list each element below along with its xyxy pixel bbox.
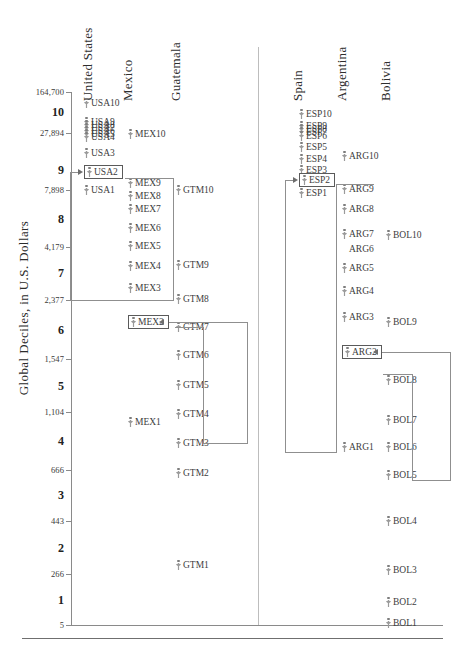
person-marker-icon [386, 470, 391, 480]
data-point-bol3: BOL3 [386, 565, 417, 575]
data-point-label: MEX6 [135, 223, 161, 233]
data-point-arg6: ARG6 [342, 244, 374, 254]
decile-label-6: 6 [12, 323, 64, 338]
person-marker-icon [176, 294, 181, 304]
person-marker-icon [128, 283, 133, 293]
data-point-label: ESP6 [306, 131, 327, 141]
person-marker-icon [84, 132, 89, 142]
data-point-label: BOL8 [393, 375, 417, 385]
column-header-arg: Argentina [334, 47, 350, 101]
column-header-mex: Mexico [120, 59, 136, 101]
person-marker-icon [342, 229, 347, 239]
person-marker-icon [386, 516, 391, 526]
data-point-label: MEX4 [135, 261, 161, 271]
person-marker-icon [386, 415, 391, 425]
person-marker-icon [128, 191, 133, 201]
y-tick-mark [66, 625, 72, 626]
data-point-bol9: BOL9 [386, 317, 417, 327]
data-point-label: GTM9 [183, 260, 209, 270]
person-marker-icon [386, 317, 391, 327]
decile-label-9: 9 [12, 163, 64, 178]
person-marker-icon [176, 380, 181, 390]
person-marker-icon [386, 375, 391, 385]
decile-label-2: 2 [12, 541, 64, 556]
data-point-label: BOL5 [393, 470, 417, 480]
data-point-arg5: ARG5 [342, 263, 374, 273]
data-point-esp2: ESP2 [299, 173, 335, 187]
y-tick-label: 7,898 [12, 185, 64, 195]
column-header-esp: Spain [290, 70, 306, 101]
data-point-bol10: BOL10 [386, 230, 422, 240]
y-tick-label: 666 [12, 465, 64, 475]
data-point-mex6: MEX6 [128, 223, 161, 233]
data-point-label: ARG6 [349, 244, 374, 254]
person-marker-icon [386, 230, 391, 240]
data-point-gtm1: GTM1 [176, 560, 209, 570]
data-point-label: BOL7 [393, 415, 417, 425]
person-marker-icon [84, 148, 89, 158]
person-marker-icon [342, 204, 347, 214]
person-marker-icon [128, 204, 133, 214]
person-marker-icon [128, 261, 133, 271]
data-point-label: ESP4 [306, 154, 327, 164]
data-point-label: MEX3 [135, 283, 161, 293]
data-point-label: USA10 [91, 98, 120, 108]
data-point-gtm2: GTM2 [176, 468, 209, 478]
data-point-arg10: ARG10 [342, 151, 379, 161]
y-tick-mark [66, 521, 72, 522]
data-point-bol1: BOL1 [386, 618, 417, 628]
y-tick-label: 5 [12, 620, 64, 630]
data-point-label: GTM1 [183, 560, 209, 570]
y-tick-mark [66, 574, 72, 575]
person-marker-icon [128, 129, 133, 139]
data-point-label: ARG3 [349, 312, 374, 322]
person-marker-icon [302, 175, 307, 185]
y-tick-mark [66, 92, 72, 93]
data-point-label: ESP2 [309, 175, 330, 185]
y-tick-label: 1,104 [12, 407, 64, 417]
y-tick-mark [66, 412, 72, 413]
column-header-bol: Bolivia [378, 61, 394, 101]
data-point-label: GTM10 [183, 185, 214, 195]
data-point-label: MEX1 [135, 417, 161, 427]
person-marker-icon [176, 260, 181, 270]
person-marker-icon [131, 317, 136, 327]
data-point-esp10: ESP10 [299, 109, 332, 119]
data-point-label: BOL6 [393, 442, 417, 452]
decile-label-5: 5 [12, 379, 64, 394]
data-point-label: ESP10 [306, 109, 332, 119]
person-marker-icon [342, 286, 347, 296]
data-point-label: ARG5 [349, 263, 374, 273]
y-tick-label: 443 [12, 516, 64, 526]
data-point-arg7: ARG7 [342, 229, 374, 239]
decile-label-3: 3 [12, 488, 64, 503]
data-point-gtm10: GTM10 [176, 185, 214, 195]
column-header-usa: United States [80, 27, 96, 101]
data-point-mex3: MEX3 [128, 283, 161, 293]
data-point-label: MEX10 [135, 129, 166, 139]
person-marker-icon [342, 442, 347, 452]
person-marker-icon [176, 560, 181, 570]
y-tick-label: 164,700 [12, 87, 64, 97]
data-point-label: GTM4 [183, 409, 209, 419]
decile-label-1: 1 [12, 593, 64, 608]
data-point-usa1: USA1 [84, 185, 115, 195]
data-point-usa10: USA10 [84, 98, 120, 108]
data-point-label: MEX8 [135, 191, 161, 201]
person-marker-icon [299, 142, 304, 152]
data-point-mex8: MEX8 [128, 191, 161, 201]
data-point-label: BOL4 [393, 516, 417, 526]
data-point-mex7: MEX7 [128, 204, 161, 214]
y-tick-label: 1,547 [12, 354, 64, 364]
y-tick-label: 266 [12, 569, 64, 579]
person-marker-icon [128, 223, 133, 233]
person-marker-icon [386, 597, 391, 607]
data-point-esp5: ESP5 [299, 142, 327, 152]
data-point-bol4: BOL4 [386, 516, 417, 526]
panel-divider [258, 47, 259, 625]
data-point-label: USA2 [94, 167, 118, 177]
person-marker-icon [345, 347, 350, 357]
data-point-label: BOL10 [393, 230, 422, 240]
person-marker-icon [299, 154, 304, 164]
person-marker-icon [299, 131, 304, 141]
